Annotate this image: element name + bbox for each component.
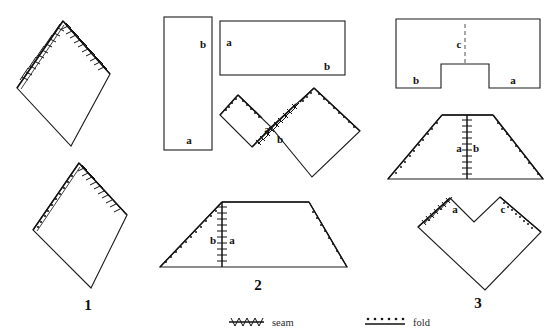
rectangle-horizontal: a b	[220, 21, 345, 75]
legend-fold-icon	[365, 318, 405, 324]
diamond-bottom-outline	[33, 163, 127, 288]
fold-right-slant-icon-2	[309, 202, 347, 267]
notched-diamond: a c	[418, 197, 541, 290]
trapezoid-2-outline	[160, 202, 347, 267]
pattern-diagram: 1 b a a b	[0, 0, 559, 336]
diamond-top-outline	[17, 21, 110, 146]
seam-center-vertical-icon-2	[217, 202, 227, 267]
legend: seam fold	[229, 317, 431, 328]
seam-center-vertical-icon-3	[462, 115, 472, 179]
fold-left-slant-icon-3	[388, 115, 442, 179]
label-b-trapezoid-3: b	[473, 142, 479, 154]
legend-seam-icon	[229, 318, 264, 326]
panel-number-2: 2	[254, 277, 262, 293]
label-a-vertical-rect: a	[186, 134, 192, 146]
figure-root: 1 b a a b	[0, 0, 559, 336]
label-c-notched-rect: c	[457, 38, 462, 50]
fold-upper-left-icon	[33, 163, 79, 230]
label-b-vertical-rect: b	[200, 38, 206, 50]
label-b-horizontal-rect: b	[324, 60, 330, 72]
label-a-horizontal-rect: a	[226, 36, 232, 48]
panel-number-3: 3	[474, 295, 482, 311]
seam-join-icon	[252, 103, 299, 147]
legend-seam-label: seam	[272, 317, 294, 328]
label-b-trapezoid-2: b	[210, 234, 216, 246]
label-a-trapezoid-2: a	[229, 234, 235, 246]
label-a-rotated-join: a	[264, 123, 270, 135]
joined-rotated-rectangles: a b	[220, 88, 360, 177]
label-b-rotated-join: b	[277, 133, 283, 145]
trapezoid-3: a b	[388, 115, 543, 179]
notched-rectangle: c b a	[396, 19, 540, 88]
diamond-top-seamed	[17, 21, 110, 146]
label-a-trapezoid-3: a	[456, 142, 462, 154]
legend-fold-label: fold	[413, 317, 431, 328]
fold-upper-right-icon-3	[500, 197, 541, 232]
rectangle-vertical-outline	[164, 17, 212, 150]
fold-small-rect-top-icon	[238, 95, 262, 118]
fold-right-slant-icon-3	[493, 115, 543, 179]
fold-small-rect-icon	[220, 95, 238, 115]
rectangle-vertical: b a	[164, 17, 212, 150]
label-a-notched-rect: a	[510, 74, 516, 86]
seam-upper-left-icon	[17, 21, 64, 88]
label-b-notched-rect: b	[413, 74, 419, 86]
seam-upper-right-icon-2	[78, 163, 127, 215]
trapezoid-2: b a	[160, 202, 347, 267]
diamond-bottom-folded	[33, 163, 127, 288]
seam-upper-left-icon-3	[418, 197, 452, 227]
diamond-bottom-inner-edge	[37, 167, 80, 231]
label-a-notched-diamond: a	[452, 203, 458, 215]
seam-upper-right-icon	[62, 21, 110, 74]
fold-large-rect-icon	[314, 88, 360, 131]
panel-number-1: 1	[84, 297, 92, 313]
trapezoid-3-outline	[388, 115, 543, 179]
rotated-rect-large-outline	[271, 88, 360, 177]
fold-large-rect-left-icon	[300, 88, 314, 102]
label-c-notched-diamond: c	[501, 203, 506, 215]
